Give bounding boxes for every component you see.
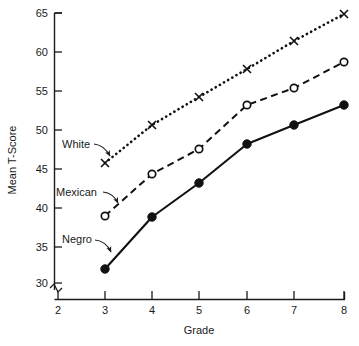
- line-chart: 65 60 55 50 45 40 35 30 2 3 4 5 6 7 8: [0, 0, 359, 346]
- annotation-white: White: [62, 138, 110, 156]
- x-tick-group: 2 3 4 5 6 7 8: [55, 291, 347, 316]
- y-tick-label-40: 40: [36, 202, 48, 214]
- series-mexican-line: [105, 62, 344, 216]
- x-tick-label-2: 2: [55, 304, 61, 316]
- x-axis-title: Grade: [184, 324, 215, 336]
- x-tick-label-5: 5: [196, 304, 202, 316]
- y-tick-label-55: 55: [36, 85, 48, 97]
- y-tick-label-60: 60: [36, 46, 48, 58]
- y-tick-label-50: 50: [36, 124, 48, 136]
- x-tick-label-7: 7: [291, 304, 297, 316]
- annotation-label-negro: Negro: [62, 233, 92, 245]
- annotation-mexican: Mexican: [56, 186, 118, 203]
- x-tick-label-3: 3: [102, 304, 108, 316]
- x-tick-label-6: 6: [244, 304, 250, 316]
- annotation-negro: Negro: [62, 233, 111, 252]
- y-axis-break-icon: [50, 284, 62, 292]
- y-tick-group: 65 60 55 50 45 40 35 30: [36, 7, 62, 289]
- annotation-label-mexican: Mexican: [56, 186, 97, 198]
- series-white: [101, 10, 348, 167]
- chart-container: 65 60 55 50 45 40 35 30 2 3 4 5 6 7 8: [0, 0, 359, 346]
- annotation-leader-mexican: [103, 192, 118, 203]
- annotation-leader-white: [94, 144, 110, 156]
- y-tick-label-45: 45: [36, 163, 48, 175]
- y-tick-label-30: 30: [36, 277, 48, 289]
- y-tick-label-65: 65: [36, 7, 48, 19]
- series-negro-line: [105, 105, 344, 269]
- series-white-markers: [101, 10, 348, 167]
- annotation-label-white: White: [62, 138, 90, 150]
- x-tick-label-8: 8: [341, 304, 347, 316]
- y-axis-title: Mean T-Score: [6, 126, 18, 195]
- annotation-leader-negro: [95, 240, 111, 252]
- series-white-line: [105, 14, 344, 163]
- x-tick-label-4: 4: [149, 304, 155, 316]
- y-tick-label-35: 35: [36, 241, 48, 253]
- axis-group: [50, 13, 345, 300]
